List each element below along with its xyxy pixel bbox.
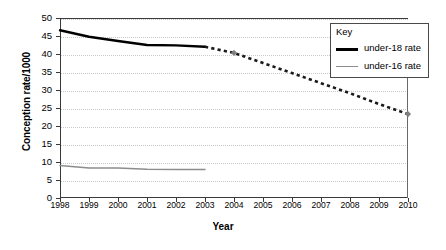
y-tick-label: 45	[22, 30, 52, 41]
legend-swatch-under-18-icon	[336, 48, 358, 51]
x-axis-title: Year	[0, 221, 446, 232]
legend-title: Key	[336, 26, 352, 37]
y-tick-label: 15	[22, 138, 52, 149]
x-tick-mark	[321, 198, 322, 202]
x-tick-mark	[147, 198, 148, 202]
x-tick-mark	[263, 198, 264, 202]
gridline	[61, 19, 408, 20]
y-tick-mark	[56, 90, 60, 91]
x-tick-mark	[234, 198, 235, 202]
y-tick-label: 50	[22, 12, 52, 23]
gridline	[61, 127, 408, 128]
legend-label-under-18: under-18 rate	[364, 42, 421, 53]
gridline	[61, 181, 408, 182]
legend-box: Key under-18 rate under-16 rate	[330, 23, 429, 78]
y-tick-label: 20	[22, 120, 52, 131]
y-tick-mark	[56, 180, 60, 181]
gridline	[61, 109, 408, 110]
y-tick-mark	[56, 36, 60, 37]
y-tick-mark	[56, 108, 60, 109]
y-tick-label: 25	[22, 102, 52, 113]
x-tick-mark	[379, 198, 380, 202]
y-tick-mark	[56, 144, 60, 145]
plot-right-edge	[407, 78, 408, 198]
y-tick-label: 30	[22, 84, 52, 95]
legend-label-under-16: under-16 rate	[364, 60, 421, 71]
x-tick-mark	[205, 198, 206, 202]
x-tick-mark	[60, 198, 61, 202]
gridline	[61, 163, 408, 164]
y-tick-mark	[56, 54, 60, 55]
x-tick-mark	[292, 198, 293, 202]
y-tick-mark	[56, 72, 60, 73]
x-tick-mark	[89, 198, 90, 202]
gridline	[61, 91, 408, 92]
y-tick-mark	[56, 126, 60, 127]
gridline	[61, 145, 408, 146]
y-tick-mark	[56, 162, 60, 163]
y-tick-label: 35	[22, 66, 52, 77]
conception-rate-chart: Conception rate/1000 0510152025303540455…	[0, 0, 446, 250]
x-tick-mark	[118, 198, 119, 202]
x-tick-mark	[350, 198, 351, 202]
legend-swatch-under-16-icon	[336, 66, 358, 67]
y-tick-label: 5	[22, 174, 52, 185]
x-tick-mark	[408, 198, 409, 202]
y-tick-mark	[56, 18, 60, 19]
y-tick-label: 40	[22, 48, 52, 59]
x-tick-mark	[176, 198, 177, 202]
y-tick-label: 10	[22, 156, 52, 167]
